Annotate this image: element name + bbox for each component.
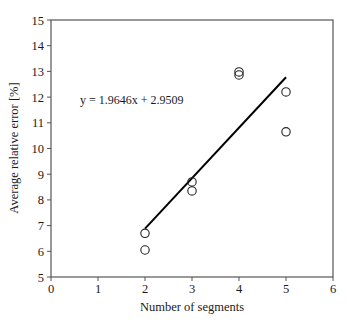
y-tick-label: 14 [32,39,45,53]
x-tick-label: 2 [142,282,148,296]
y-tick-label: 13 [32,65,45,79]
y-tick-label: 11 [32,116,44,130]
y-tick-label: 5 [38,271,44,285]
x-axis-title: Number of segments [140,300,244,314]
y-tick-label: 12 [32,91,45,105]
x-tick-label: 1 [95,282,101,296]
x-tick-label: 3 [189,282,195,296]
plot-border [51,20,333,277]
y-tick-label: 6 [38,245,44,259]
data-point-marker [282,88,290,96]
y-tick-label: 15 [32,14,45,28]
y-axis-title: Average relative error [%] [7,82,21,213]
y-axis-ticks: 56789101112131415 [32,14,52,285]
plot-frame [51,20,333,277]
data-point-marker [282,128,290,136]
y-tick-label: 9 [38,168,44,182]
data-point-marker [188,187,196,195]
y-tick-label: 8 [38,193,44,207]
x-tick-label: 5 [283,282,289,296]
x-tick-label: 4 [236,282,243,296]
y-tick-label: 10 [32,142,45,156]
y-tick-label: 7 [38,219,44,233]
x-tick-label: 0 [48,282,54,296]
x-tick-label: 6 [330,282,336,296]
x-axis-ticks: 0123456 [48,277,336,296]
data-point-marker [141,229,149,237]
scatter-chart: 56789101112131415 0123456 y = 1.9646x + … [0,0,350,324]
trendline-equation: y = 1.9646x + 2.9509 [80,93,184,107]
data-point-marker [141,246,149,254]
